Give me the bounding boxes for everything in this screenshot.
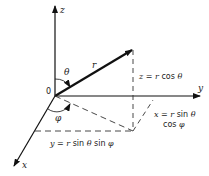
x-axis-label: x	[22, 160, 27, 170]
y-equation: y = r sin θ sin φ	[49, 139, 114, 148]
theta-arc	[55, 79, 70, 87]
x-equation-line1: x = r sin θ	[154, 110, 196, 119]
xy-projection-line	[55, 96, 133, 131]
x-component-line	[133, 100, 153, 131]
r-label: r	[92, 60, 97, 70]
z-equation: z = r cos θ	[138, 72, 182, 81]
phi-label: φ	[55, 113, 62, 123]
phi-arc	[48, 104, 70, 112]
z-axis-label: z	[59, 5, 65, 15]
spherical-coordinates-diagram: z y x 0 r θ φ z = r cos θ x = r sin θ co…	[0, 0, 209, 176]
theta-label: θ	[64, 67, 70, 77]
origin-label: 0	[46, 87, 51, 96]
x-equation-line2: cos φ	[163, 120, 185, 129]
y-axis-label: y	[197, 83, 204, 93]
